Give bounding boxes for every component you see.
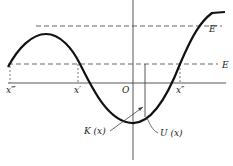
label-kinetic: K (x) — [83, 126, 106, 136]
label-e-prime: E′ — [208, 24, 218, 34]
label-x-triple: x‴ — [6, 85, 16, 95]
label-potential: U (x) — [160, 128, 183, 138]
potential-curve — [8, 12, 225, 123]
label-x-prime: x′ — [74, 85, 81, 95]
label-x-double: x″ — [176, 85, 185, 95]
potential-energy-diagram: E′ E x‴ x′ O x″ K (x) U (x) — [0, 0, 233, 166]
potential-leader — [147, 118, 158, 133]
label-e: E — [221, 60, 229, 70]
label-origin: O — [122, 85, 130, 95]
kinetic-arrow — [110, 107, 143, 131]
